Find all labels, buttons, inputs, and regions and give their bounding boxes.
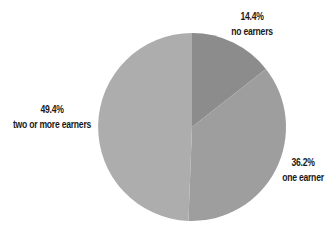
label-no-earners-percent: 14.4% xyxy=(231,9,273,24)
label-two-or-more-earners-percent: 49.4% xyxy=(13,102,91,117)
slice-two-or-more-earners xyxy=(98,33,192,221)
label-two-or-more-earners: 49.4% two or more earners xyxy=(13,102,91,132)
label-no-earners: 14.4% no earners xyxy=(231,9,273,39)
label-two-or-more-earners-name: two or more earners xyxy=(13,117,91,132)
pie-slices xyxy=(98,33,286,221)
label-one-earner-name: one earner xyxy=(282,170,324,185)
label-no-earners-name: no earners xyxy=(231,24,273,39)
label-one-earner-percent: 36.2% xyxy=(282,155,324,170)
label-one-earner: 36.2% one earner xyxy=(282,155,324,185)
